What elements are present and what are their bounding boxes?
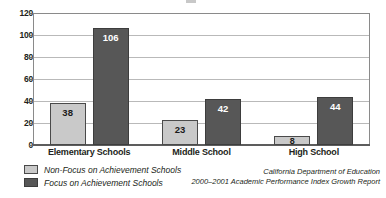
bar-value-label: 42 [206,103,240,114]
legend-item: Non-Focus on Achievement Schools [24,164,181,175]
source-line-report: 2000–2001 Academic Performance Index Gro… [191,177,380,187]
legend-item: Focus on Achievement Schools [24,177,181,188]
bar-value-label: 8 [275,136,309,146]
bar-value-label: 23 [163,124,197,135]
gridline [34,35,369,36]
cropped-title-remnant [186,0,196,3]
source-line-agency: California Department of Education [191,167,380,177]
bar-chart: 120100806040200 381062342844 Elementary … [0,0,386,198]
bar-non-focus: 38 [50,103,86,145]
category-label: High School [244,147,384,157]
legend-label-non-focus: Non-Focus on Achievement Schools [44,165,181,175]
legend: Non-Focus on Achievement Schools Focus o… [24,164,181,190]
legend-label-focus: Focus on Achievement Schools [44,178,163,188]
bar-value-label: 38 [51,107,85,118]
gridline [34,79,369,80]
bar-non-focus: 23 [162,120,198,145]
bar-value-label: 44 [318,101,352,112]
bar-focus: 106 [93,28,129,145]
bar-focus: 44 [317,97,353,145]
bar-value-label: 106 [94,32,128,43]
source-note: California Department of Education 2000–… [191,167,380,187]
gridline [34,57,369,58]
bar-non-focus: 8 [274,136,310,145]
legend-swatch-non-focus-icon [24,165,38,174]
bar-focus: 42 [205,99,241,145]
legend-swatch-focus-icon [24,178,38,187]
